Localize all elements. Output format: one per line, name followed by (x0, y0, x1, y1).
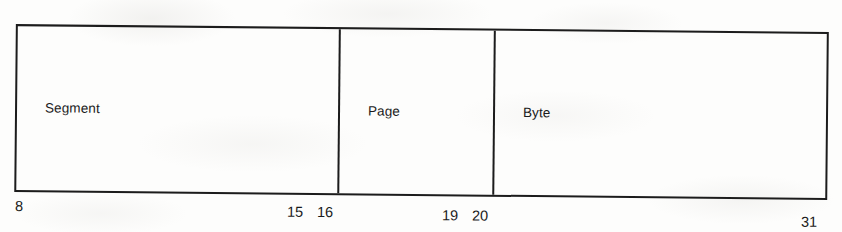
bit-number-page-start: 16 (317, 205, 333, 220)
bit-number-segment-start: 8 (15, 199, 23, 214)
scanned-page-background: Segment Page Byte 8 15 16 19 20 31 (0, 0, 842, 232)
bit-field-byte-label: Byte (495, 104, 551, 120)
bit-field-segment-label: Segment (17, 100, 100, 116)
bit-field-byte: Byte (492, 31, 827, 198)
bit-number-page-end: 19 (442, 208, 458, 223)
address-format-diagram: Segment Page Byte 8 15 16 19 20 31 (0, 0, 842, 232)
bit-number-byte-start: 20 (472, 208, 488, 223)
bit-field-page-label: Page (340, 103, 400, 119)
bit-field-segment: Segment (16, 26, 339, 193)
bit-number-segment-end: 15 (287, 205, 303, 220)
bit-field-box: Segment Page Byte (14, 24, 829, 200)
bit-field-page: Page (337, 29, 494, 194)
bit-number-byte-end: 31 (801, 215, 817, 230)
